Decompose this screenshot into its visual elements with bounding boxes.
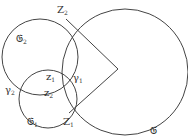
diagram-canvas: 𝔊2 Z2 z1 z2 γ1 γ2 𝔊1 Z1 𝔊 bbox=[0, 0, 188, 140]
label-gamma2: γ2 bbox=[5, 85, 15, 96]
label-gamma1: γ1 bbox=[73, 73, 83, 84]
tangent-lines bbox=[66, 19, 118, 113]
label-C: 𝔊 bbox=[150, 126, 157, 136]
label-z1: z1 bbox=[46, 72, 55, 83]
circle-C bbox=[62, 9, 188, 135]
label-C1: 𝔊1 bbox=[27, 117, 38, 128]
label-Z2: Z2 bbox=[57, 5, 68, 16]
label-z2: z2 bbox=[44, 88, 53, 99]
circle-C2 bbox=[2, 19, 78, 95]
label-C2: 𝔊2 bbox=[16, 34, 27, 45]
label-Z1: Z1 bbox=[63, 117, 74, 128]
